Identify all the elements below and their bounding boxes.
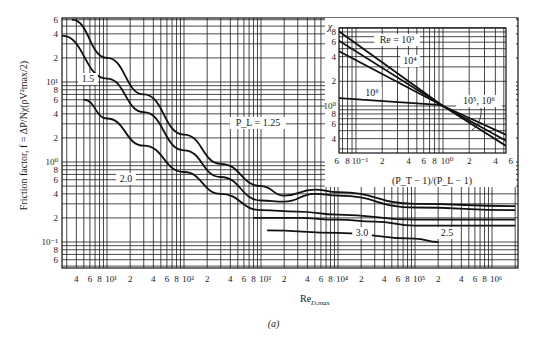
y-tick-label: 4 [54,189,59,199]
inset-x-tick-label: 4 [493,156,498,166]
y-tick-label: 2 [54,213,59,223]
x-tick-label: 6 [242,274,247,284]
y-tick-label: 4 [54,109,59,119]
curve-label-2-0: 2.0 [120,173,133,184]
curve-label-2-5: 2.5 [441,227,454,238]
inset-label-re3: Re = 10³ [380,34,415,45]
x-tick-label: 8 [328,274,333,284]
x-tick-label: 6 [396,274,401,284]
x-tick-label: 8 [482,274,487,284]
x-axis-label-sub: D,max [311,299,329,307]
inset-x-tick-label: 4 [406,156,411,166]
inset-x-tick-label: 2 [467,156,472,166]
inset-label-re56: 10⁵, 10⁶ [463,95,495,106]
x-tick-label: 2 [359,274,364,284]
y-tick-label: 6 [54,15,59,25]
x-tick-label: 2 [205,274,210,284]
x-tick-label: 4 [228,274,233,284]
inset-x-tick-label: 6 [334,156,339,166]
x-tick-label: 4 [382,274,387,284]
inset-y-axis-label: χ [327,21,333,32]
x-axis-label: ReD,max [300,293,330,307]
x-tick-label: 8 [97,274,102,284]
inset-y-tick-label: 4 [332,134,337,144]
x-tick-label: 4 [151,274,156,284]
x-tick-label: 8 [174,274,179,284]
x-tick-label: 4 [305,274,310,284]
inset-y-tick-label: 6 [332,37,337,47]
inset-x-tick-label: 6 [508,156,513,166]
x-tick-label: 10⁵ [413,274,425,284]
y-tick-label: 6 [54,95,59,105]
x-tick-label: 4 [459,274,464,284]
x-tick-label: 6 [319,274,324,284]
y-tick-label: 6 [54,255,59,265]
x-tick-label: 10¹ [105,274,117,284]
y-tick-label: 2 [54,133,59,143]
inset-y-tick-label: 4 [332,52,337,62]
x-tick-label: 10⁴ [336,274,348,284]
inset-x-tick-label: 6 [421,156,426,166]
x-tick-label: 4 [74,274,79,284]
y-tick-label: 4 [54,29,59,39]
curve-label-1-25: P_L = 1.25 [236,117,280,128]
y-tick-label: 8 [54,85,59,95]
inset-y-tick-label: 8 [332,109,337,119]
curve-label-3-0: 3.0 [356,227,369,238]
x-tick-label: 8 [251,274,256,284]
y-tick-label: 2 [54,53,59,63]
curve-label-1-5: 1.5 [82,73,95,84]
inset-label-re4: 10⁴ [403,55,417,66]
inset-label-re6: 10⁶ [365,87,379,98]
x-tick-label: 2 [282,274,287,284]
x-tick-label: 2 [436,274,441,284]
inset-x-tick-label: 10⁰ [441,156,454,166]
chart-canvas: 46810¹246810²246810³246810⁴246810⁵246810… [0,0,547,347]
inset-x-axis-label: (P_T − 1)/(P_L − 1) [392,175,472,187]
figure-caption: (a) [0,318,547,329]
y-tick-label: 8 [54,165,59,175]
y-tick-label: 6 [54,175,59,185]
x-tick-label: 6 [88,274,93,284]
x-tick-label: 2 [128,274,133,284]
y-axis-label: Friction factor, f = ΔP/Nχ(ρV²max/2) [18,51,29,221]
inset-x-tick-label: 8 [432,156,437,166]
inset-x-tick-label: 8 [345,156,350,166]
y-tick-label: 8 [54,245,59,255]
friction-factor-chart: 46810¹246810²246810³246810⁴246810⁵246810… [0,0,547,347]
x-tick-label: 10⁶ [490,274,502,284]
inset-y-tick-label: 2 [332,76,337,86]
x-tick-label: 10² [182,274,194,284]
inset-y-tick-label: 8 [332,27,337,37]
inset-x-tick-label: 2 [380,156,385,166]
x-tick-label: 6 [165,274,170,284]
x-tick-label: 6 [473,274,478,284]
inset-y-tick-label: 6 [332,119,337,129]
x-tick-label: 10³ [259,274,271,284]
x-axis-label-base: Re [300,293,311,304]
inset-x-tick-label: 10⁻¹ [352,156,369,166]
x-tick-label: 8 [405,274,410,284]
